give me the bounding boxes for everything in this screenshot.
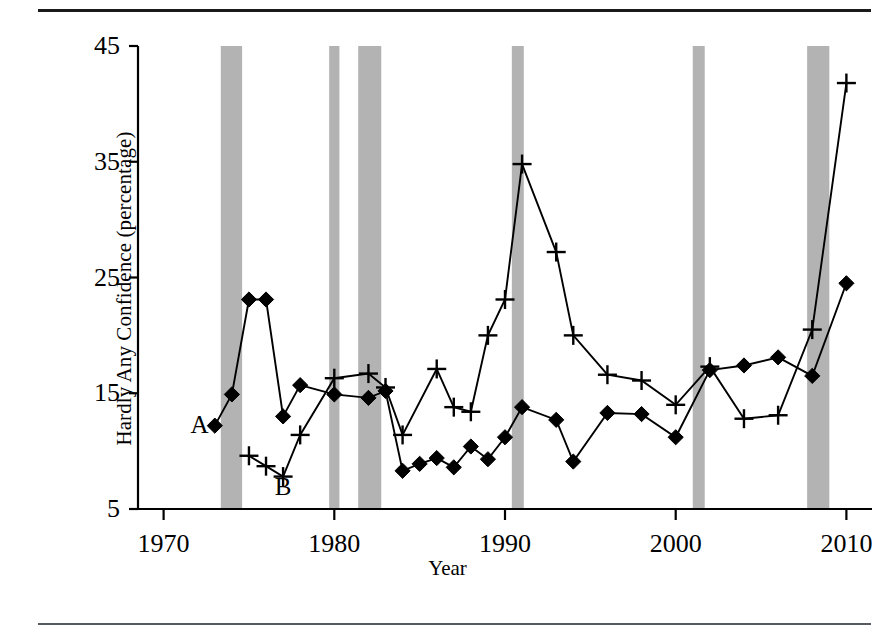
recession-band [329,46,339,509]
data-point-marker-diamond [771,350,786,365]
data-point-marker-plus [734,409,753,428]
data-point-marker-diamond [549,412,564,427]
data-point-marker-diamond [566,454,581,469]
data-point-marker-diamond [258,292,273,307]
data-point-marker-plus [547,243,566,262]
y-axis-label: Hardly Any Confidence (percentage) [112,79,137,499]
data-point-marker-diamond [327,387,342,402]
recession-band [693,46,705,509]
data-point-marker-diamond [634,406,649,421]
data-point-marker-diamond [207,418,222,433]
data-point-marker-diamond [736,358,751,373]
data-point-marker-plus [325,369,344,388]
data-point-marker-plus [239,446,258,465]
data-point-marker-plus [478,326,497,345]
data-point-marker-diamond [293,378,308,393]
x-axis-tick-label: 1990 [479,529,531,558]
data-point-marker-diamond [241,292,256,307]
figure-page: 51525354519701980199020002010AB Hardly A… [0,0,895,637]
x-axis-tick-label: 1970 [138,529,190,558]
x-axis-tick-label: 2000 [650,529,702,558]
data-point-marker-plus [257,457,276,476]
series-annotation-B: B [275,473,292,500]
data-point-marker-diamond [395,463,410,478]
x-axis-label: Year [0,556,895,581]
recession-band [807,46,829,509]
recession-band [358,46,381,509]
data-point-marker-diamond [668,430,683,445]
y-axis-tick-label: 45 [94,31,120,60]
x-axis-tick-label: 2010 [820,529,872,558]
data-point-marker-diamond [600,405,615,420]
data-point-marker-plus [461,402,480,421]
data-point-marker-plus [444,398,463,417]
recession-band [512,46,524,509]
data-point-marker-diamond [839,276,854,291]
data-point-marker-diamond [275,409,290,424]
data-point-marker-diamond [429,450,444,465]
series-line-A [215,283,847,471]
data-point-marker-plus [837,74,856,93]
data-point-marker-diamond [412,456,427,471]
data-point-marker-plus [769,406,788,425]
series-annotation-A: A [190,411,208,438]
recession-band [221,46,242,509]
x-axis-tick-label: 1980 [308,529,360,558]
data-point-marker-plus [427,359,446,378]
data-point-marker-plus [496,290,515,309]
data-point-marker-plus [291,425,310,444]
data-point-marker-plus [632,371,651,390]
